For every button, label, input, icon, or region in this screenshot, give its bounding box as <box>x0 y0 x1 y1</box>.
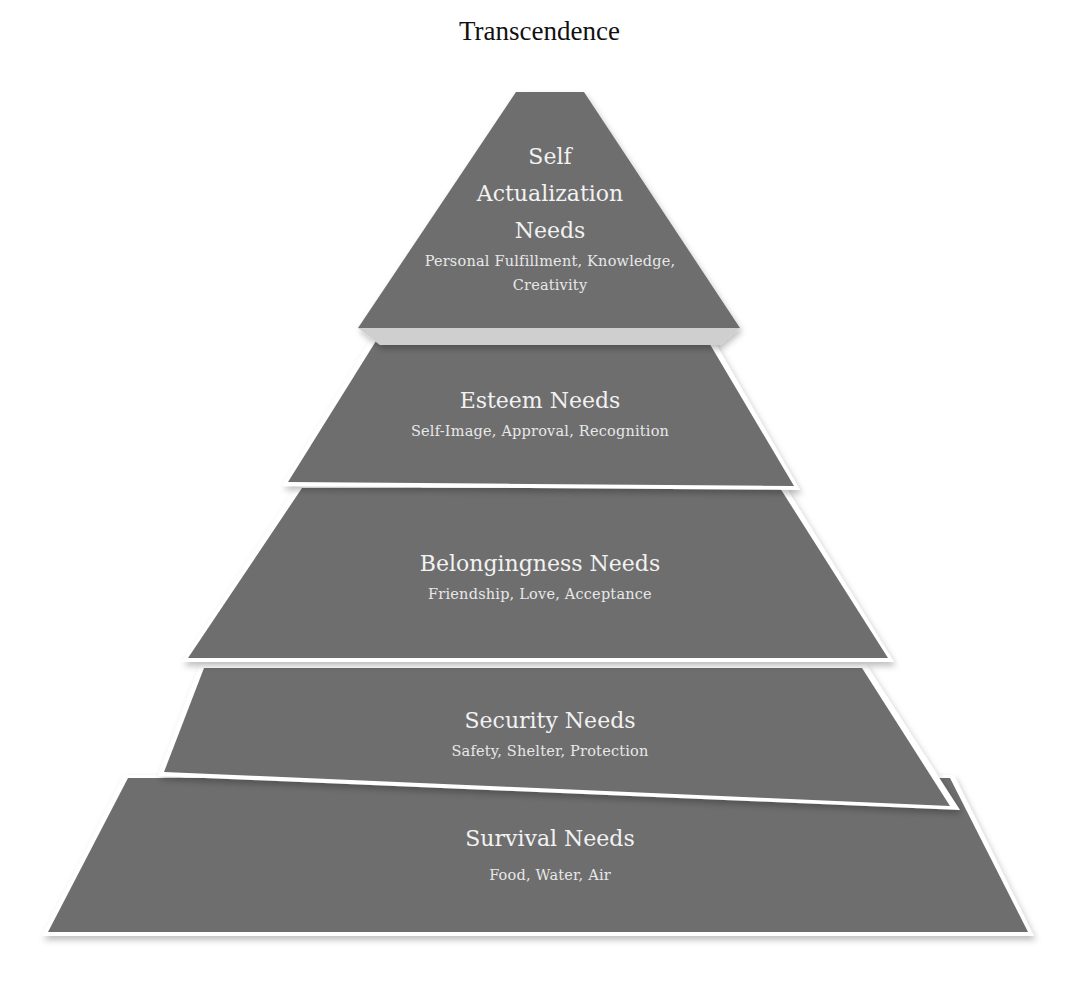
tier-survival: Survival Needs Food, Water, Air <box>320 820 780 887</box>
tier-title: Belongingness Needs <box>300 545 780 582</box>
tier-title: Esteem Needs <box>330 382 750 419</box>
tier-belongingness: Belongingness Needs Friendship, Love, Ac… <box>300 545 780 606</box>
tier-self-actualization: Self Actualization Needs Personal Fulfil… <box>370 138 730 297</box>
tier-esteem: Esteem Needs Self-Image, Approval, Recog… <box>330 382 750 443</box>
tier-subtitle: Personal Fulfillment, Knowledge, <box>370 249 730 273</box>
tier-title: Needs <box>370 212 730 249</box>
tier-title: Security Needs <box>320 702 780 739</box>
tier-title: Actualization <box>370 175 730 212</box>
needs-pyramid: Transcendence Self Actualization Needs P… <box>0 0 1079 988</box>
tier-subtitle: Creativity <box>370 273 730 297</box>
tier-title: Survival Needs <box>320 820 780 857</box>
apex-label: Transcendence <box>0 16 1079 47</box>
tier-subtitle: Food, Water, Air <box>320 863 780 887</box>
tier-title: Self <box>370 138 730 175</box>
tier-subtitle: Safety, Shelter, Protection <box>320 739 780 763</box>
tier-subtitle: Self-Image, Approval, Recognition <box>330 419 750 443</box>
tier-security: Security Needs Safety, Shelter, Protecti… <box>320 702 780 763</box>
tier-subtitle: Friendship, Love, Acceptance <box>300 582 780 606</box>
